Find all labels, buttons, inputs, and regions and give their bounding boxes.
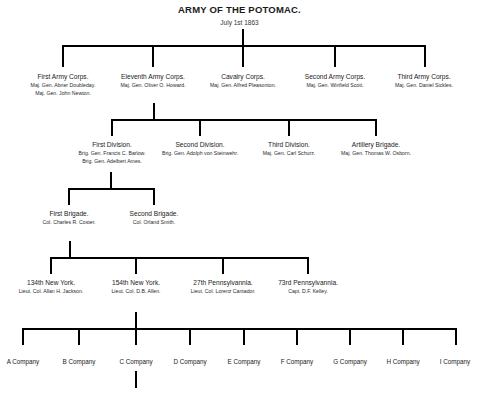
node-company-8[interactable]: H Company xyxy=(386,358,419,365)
corps-1-commander-2: Maj. Gen. John Newton. xyxy=(31,89,96,97)
connector-corps-drop-3 xyxy=(242,45,244,67)
node-regiment-2[interactable]: 154th New York. Lieut. Col. D.B. Allen. xyxy=(111,278,160,295)
connector-company-drop-8 xyxy=(402,328,404,345)
node-division-4[interactable]: Artillery Brigade. Maj. Gen. Thomas W. O… xyxy=(341,140,411,157)
regiment-2-commander-1: Lieut. Col. D.B. Allen. xyxy=(111,287,160,295)
connector-company-drop-2 xyxy=(78,328,80,345)
node-company-9[interactable]: I Company xyxy=(440,358,470,365)
connector-brigade1-down xyxy=(69,241,71,258)
division-1-commander-1: Brig. Gen. Francis C. Barlow. xyxy=(79,149,146,157)
connector-company-drop-7 xyxy=(349,328,351,345)
division-3-commander-1: Maj. Gen. Carl Schurz. xyxy=(263,149,315,157)
connector-regiment-drop-1 xyxy=(50,257,52,274)
connector-regiment2-down xyxy=(135,312,137,329)
connector-corps-drop-5 xyxy=(424,45,426,67)
brigade-2-commander-1: Col. Orland Smith. xyxy=(130,218,179,226)
connector-company-drop-1 xyxy=(22,328,24,345)
regiment-2-name: 154th New York. xyxy=(111,278,160,287)
node-company-7[interactable]: G Company xyxy=(333,358,367,365)
connector-division-drop-2 xyxy=(199,119,201,136)
division-4-commander-1: Maj. Gen. Thomas W. Osborn. xyxy=(341,149,411,157)
brigade-1-name: First Brigade. xyxy=(42,209,95,218)
node-company-5[interactable]: E Company xyxy=(228,358,261,365)
connector-division-drop-3 xyxy=(288,119,290,136)
node-corps-1[interactable]: First Army Corps. Maj. Gen. Abner Double… xyxy=(31,72,96,97)
regiment-4-name: 73rd Pennsylvannia. xyxy=(278,278,338,287)
connector-company-drop-3 xyxy=(135,328,137,345)
connector-company-drop-4 xyxy=(189,328,191,345)
division-1-name: First Division. xyxy=(79,140,146,149)
connector-company-drop-6 xyxy=(296,328,298,345)
connector-brigade-drop-1 xyxy=(68,188,70,205)
division-2-commander-1: Brig. Gen. Adolph von Steinwehr. xyxy=(162,149,238,157)
connector-division-drop-4 xyxy=(375,119,377,136)
corps-1-commander-1: Maj. Gen. Abner Doubleday. xyxy=(31,81,96,89)
connector-regiment-drop-3 xyxy=(222,257,224,274)
corps-2-name: Eleventh Army Corps. xyxy=(120,72,185,81)
connector-brigade-drop-2 xyxy=(153,188,155,205)
corps-2-commander-1: Maj. Gen. Oliver O. Howard. xyxy=(120,81,185,89)
node-corps-4[interactable]: Second Army Corps. Maj. Gen. Winfield Sc… xyxy=(305,72,365,89)
regiment-3-commander-1: Lieut. Col. Lorenz Cantador. xyxy=(191,287,256,295)
node-division-1[interactable]: First Division. Brig. Gen. Francis C. Ba… xyxy=(79,140,146,165)
brigade-1-commander-1: Col. Charles R. Coster. xyxy=(42,218,95,226)
org-chart: ARMY OF THE POTOMAC. July 1st 1863 First… xyxy=(0,0,479,397)
corps-3-commander-1: Maj. Gen. Alfred Pleasonton. xyxy=(210,81,276,89)
node-division-3[interactable]: Third Division. Maj. Gen. Carl Schurz. xyxy=(263,140,315,157)
corps-1-name: First Army Corps. xyxy=(31,72,96,81)
corps-4-name: Second Army Corps. xyxy=(305,72,365,81)
corps-5-commander-1: Maj. Gen. Daniel Sickles. xyxy=(395,81,453,89)
node-corps-2[interactable]: Eleventh Army Corps. Maj. Gen. Oliver O.… xyxy=(120,72,185,89)
regiment-3-name: 27th Pennsylvannia. xyxy=(191,278,256,287)
connector-company3-down xyxy=(135,371,137,388)
node-company-2[interactable]: B Company xyxy=(63,358,96,365)
division-3-name: Third Division. xyxy=(263,140,315,149)
connector-division1-down xyxy=(110,172,112,189)
node-company-1[interactable]: A Company xyxy=(7,358,40,365)
division-1-commander-2: Brig. Gen. Adelbert Ames. xyxy=(79,157,146,165)
brigade-2-name: Second Brigade. xyxy=(130,209,179,218)
node-company-4[interactable]: D Company xyxy=(173,358,206,365)
connector-companies-bus xyxy=(22,328,455,330)
node-regiment-4[interactable]: 73rd Pennsylvannia. Capt. D.F. Kelley. xyxy=(278,278,338,295)
regiment-1-name: 134th New York. xyxy=(19,278,84,287)
node-company-3[interactable]: C Company xyxy=(119,358,152,365)
connector-regiment-drop-2 xyxy=(135,257,137,274)
connector-regiment-drop-4 xyxy=(307,257,309,274)
connector-corps-drop-1 xyxy=(62,45,64,67)
connector-corps-drop-4 xyxy=(334,45,336,67)
division-2-name: Second Division. xyxy=(162,140,238,149)
connector-divisions-bus xyxy=(111,119,376,121)
connector-corps2-down xyxy=(153,103,155,120)
node-company-6[interactable]: F Company xyxy=(281,358,314,365)
page-title: ARMY OF THE POTOMAC. xyxy=(0,4,479,15)
node-brigade-1[interactable]: First Brigade. Col. Charles R. Coster. xyxy=(42,209,95,226)
connector-company-drop-9 xyxy=(455,328,457,345)
connector-brigades-bus xyxy=(68,188,154,190)
connector-company-drop-5 xyxy=(243,328,245,345)
connector-division-drop-1 xyxy=(111,119,113,136)
connector-corps-drop-2 xyxy=(152,45,154,67)
node-corps-3[interactable]: Cavalry Corps. Maj. Gen. Alfred Pleasont… xyxy=(210,72,276,89)
node-division-2[interactable]: Second Division. Brig. Gen. Adolph von S… xyxy=(162,140,238,157)
node-corps-5[interactable]: Third Army Corps. Maj. Gen. Daniel Sickl… xyxy=(395,72,453,89)
regiment-1-commander-1: Lieut. Col. Allan H. Jackson. xyxy=(19,287,84,295)
division-4-name: Artillery Brigade. xyxy=(341,140,411,149)
connector-regiments-bus xyxy=(50,257,308,259)
corps-3-name: Cavalry Corps. xyxy=(210,72,276,81)
corps-5-name: Third Army Corps. xyxy=(395,72,453,81)
connector-title-down xyxy=(242,29,244,46)
node-regiment-3[interactable]: 27th Pennsylvannia. Lieut. Col. Lorenz C… xyxy=(191,278,256,295)
page-subtitle: July 1st 1863 xyxy=(0,19,479,26)
node-brigade-2[interactable]: Second Brigade. Col. Orland Smith. xyxy=(130,209,179,226)
regiment-4-commander-1: Capt. D.F. Kelley. xyxy=(278,287,338,295)
node-regiment-1[interactable]: 134th New York. Lieut. Col. Allan H. Jac… xyxy=(19,278,84,295)
corps-4-commander-1: Maj. Gen. Winfield Scott. xyxy=(305,81,365,89)
